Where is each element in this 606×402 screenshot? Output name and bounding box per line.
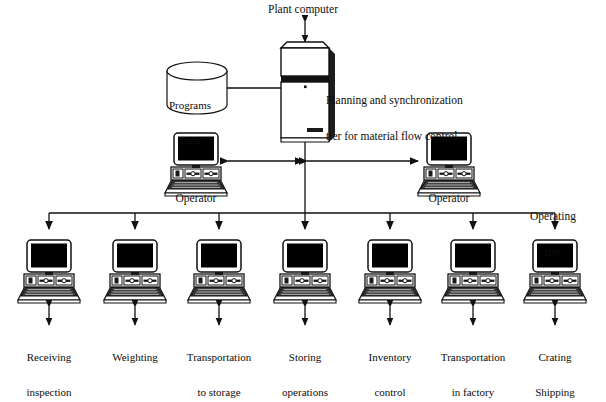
operating-node-icon-2 [104, 240, 166, 303]
operator-label-2: Operator [429, 192, 470, 204]
operating-node-label-4: Storing operations [282, 329, 328, 402]
node-label-line1: Inventory [369, 352, 412, 364]
operating-tier-bus [49, 213, 555, 229]
operating-tier-label: Operating tier [530, 186, 576, 283]
operating-node-icon-6 [442, 240, 504, 303]
operating-node-icon-3 [188, 240, 250, 303]
operator-label-1: Operator [176, 192, 217, 204]
node-label-line2: inspection [26, 387, 71, 399]
operating-node-label-3: Transportation to storage [187, 329, 251, 402]
operating-node-arrows [49, 307, 555, 325]
operating-node-label-5: Inventory control [369, 329, 412, 402]
operating-tier-line1: Operating [530, 210, 576, 222]
node-label-line2: Shipping [535, 387, 575, 399]
database-label-line2: Data [169, 135, 211, 147]
node-label-line2: operations [282, 387, 328, 399]
node-label-line2: to storage [187, 387, 251, 399]
plant-computer-label: Plant computer [268, 3, 338, 15]
operating-node-icon-4 [274, 240, 336, 303]
node-label-line1: Receiving [26, 352, 71, 364]
planning-tier-label: Planning and synchronization tier for ma… [326, 70, 463, 167]
node-label-line2: control [369, 387, 412, 399]
node-label-line1: Transportation [441, 352, 505, 364]
operating-node-label-2: Weighting [112, 329, 158, 402]
operating-node-label-1: Receiving inspection [26, 329, 71, 402]
operating-node-label-6: Transportation in factory [441, 329, 505, 402]
operating-node-icon-5 [359, 240, 421, 303]
operating-node-label-7: Crating Shipping [535, 329, 575, 402]
node-label-line1: Storing [282, 352, 328, 364]
operating-node-icon-1 [18, 240, 80, 303]
node-label-line2: in factory [441, 387, 505, 399]
database-label-line1: Programs [169, 100, 211, 112]
planning-tier-line2: tier for material flow control [326, 130, 463, 142]
operating-tier-line2: tier [530, 246, 576, 258]
node-label-line1: Weighting [112, 352, 158, 364]
planning-tier-line1: Planning and synchronization [326, 94, 463, 106]
node-label-line1: Transportation [187, 352, 251, 364]
database-label: Programs Data [169, 77, 211, 169]
node-label-line1: Crating [535, 352, 575, 364]
